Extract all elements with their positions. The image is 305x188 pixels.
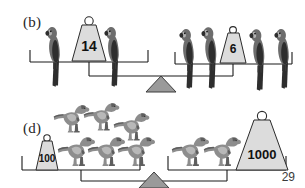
dinosaur bbox=[114, 113, 150, 141]
balance-scale-d: 100 1000 bbox=[0, 94, 305, 188]
weight-14: 14 bbox=[72, 17, 106, 61]
balance-scale-b: 14 6 bbox=[0, 0, 305, 94]
panel-d: (d) bbox=[0, 94, 305, 188]
dinosaur bbox=[84, 103, 120, 131]
figure-page: (b) bbox=[0, 0, 305, 188]
bird bbox=[45, 27, 59, 87]
bird bbox=[179, 29, 193, 89]
bird bbox=[201, 27, 216, 89]
weight-14-label: 14 bbox=[81, 38, 97, 54]
dino-group-left-d bbox=[54, 103, 155, 166]
dinosaur bbox=[54, 105, 90, 133]
page-number: 29 bbox=[282, 170, 295, 184]
weight-1000: 1000 bbox=[236, 111, 288, 170]
bird bbox=[249, 29, 264, 91]
bird bbox=[274, 29, 288, 89]
bird bbox=[104, 27, 118, 87]
beam-d bbox=[81, 172, 227, 188]
dinosaur bbox=[172, 137, 209, 166]
weight-6-label: 6 bbox=[230, 42, 237, 56]
weight-100-label: 100 bbox=[39, 153, 56, 164]
weight-100: 100 bbox=[36, 135, 58, 170]
dinosaur bbox=[204, 137, 241, 166]
dino-group-right-d bbox=[172, 137, 241, 166]
weight-1000-label: 1000 bbox=[248, 147, 277, 162]
weight-6: 6 bbox=[220, 27, 246, 63]
panel-b: (b) bbox=[0, 0, 305, 94]
